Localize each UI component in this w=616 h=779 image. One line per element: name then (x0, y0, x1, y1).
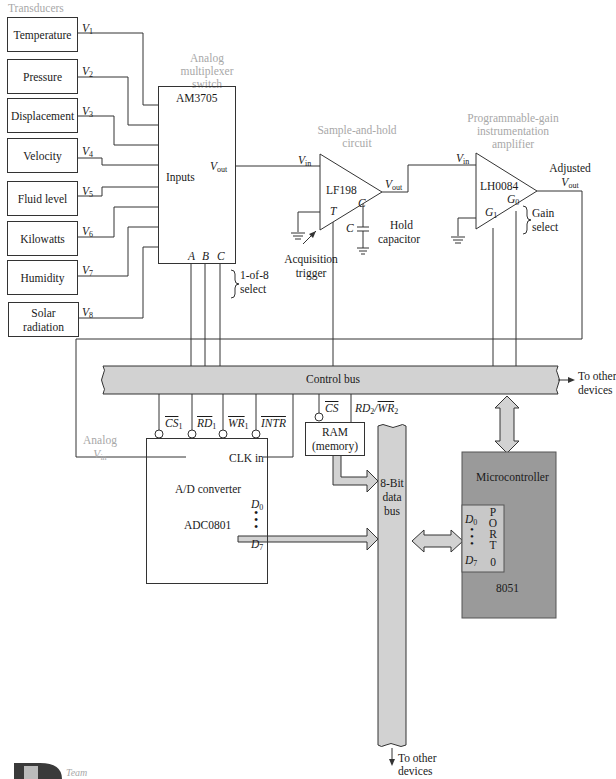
mcu-title: Microcontroller (476, 471, 549, 484)
mux-inputs-label: Inputs (166, 171, 195, 184)
adc-pin-rd1: RD1 (197, 417, 216, 433)
transducer-pressure: Pressure (7, 59, 78, 94)
mux-pin-b: B (202, 250, 209, 263)
data-bus-to-other: To other devices (398, 752, 436, 778)
ram-block: RAM (memory) (305, 422, 365, 456)
pga-g0: G0 (507, 193, 519, 209)
transducer-humidity: Humidity (7, 260, 78, 295)
data-bus-shape (378, 425, 406, 747)
signal-v7: V7 (82, 264, 93, 280)
signal-v4: V4 (82, 145, 93, 161)
control-bus-label: Control bus (306, 373, 360, 386)
transducer-kilowatts: Kilowatts (7, 221, 78, 256)
adc-pin-intr: INTR (261, 417, 286, 430)
transducers-header: Transducers (8, 2, 64, 15)
adc-analog-in: Analog Vin (80, 433, 120, 465)
mcu-ellipsis: ••• (470, 526, 474, 547)
adc-title: A/D converter (175, 483, 241, 496)
pga-vin: Vin (456, 152, 469, 168)
mcu-port-label: P O R T 0 (486, 507, 500, 568)
sample-hold-header: Sample-and-hold circuit (302, 124, 412, 150)
control-bus-to-other: To other devices (578, 369, 616, 397)
mux-select-note: 1-of-8 select (240, 268, 269, 296)
data-bus-label: 8-Bit data bus (378, 476, 406, 518)
adc-pin-wr1: WR1 (228, 417, 249, 433)
ram-cs: CS (325, 402, 338, 415)
signal-v8: V8 (82, 306, 93, 322)
transducer-fluid-level: Fluid level (7, 181, 78, 216)
team-logo-text: Team (66, 766, 87, 779)
mcu-d7: D7 (465, 554, 477, 570)
sh-pin-c: C (358, 197, 366, 210)
pga-header: Programmable-gain instrumentation amplif… (458, 112, 568, 151)
pga-g1: G1 (485, 206, 497, 222)
transducer-solar-radiation: Solar radiation (8, 302, 79, 337)
transducer-displacement: Displacement (7, 98, 78, 133)
mux-pin-c: C (217, 250, 225, 263)
transducer-temperature: Temperature (7, 17, 78, 52)
sh-cap-label: C (346, 222, 354, 235)
team-logo-mark (14, 763, 62, 779)
mux-pin-a: A (188, 250, 195, 263)
signal-v2: V2 (82, 65, 93, 81)
sh-trigger-note: Acquisition trigger (276, 252, 346, 280)
signal-v5: V5 (82, 185, 93, 201)
sh-cap-note: Hold capacitor (378, 218, 420, 246)
adc-pin-cs1: CS1 (165, 417, 182, 433)
mcu-part: 8051 (496, 582, 519, 595)
mux-vout: Vout (210, 160, 227, 176)
pga-gain-note: Gain select (532, 206, 558, 234)
sh-pin-t: T (330, 205, 336, 218)
adc-clk-in: CLK in (229, 452, 264, 465)
pga-part: LH0084 (480, 180, 518, 193)
sh-part: LF198 (326, 184, 357, 197)
transducer-velocity: Velocity (7, 138, 78, 173)
ram-rd-wr: RD2/WR2 (355, 402, 398, 418)
mux-part: AM3705 (176, 92, 218, 105)
pga-output-note: Adjusted Vout (540, 161, 600, 193)
sh-vout: Vout (385, 178, 402, 194)
signal-v3: V3 (82, 105, 93, 121)
signal-v6: V6 (82, 225, 93, 241)
sh-vin: Vin (298, 154, 311, 170)
adc-ellipsis: ••• (254, 510, 258, 531)
adc-d7: D7 (251, 538, 263, 554)
adc-part: ADC0801 (184, 519, 231, 532)
signal-v1: V1 (82, 22, 93, 38)
